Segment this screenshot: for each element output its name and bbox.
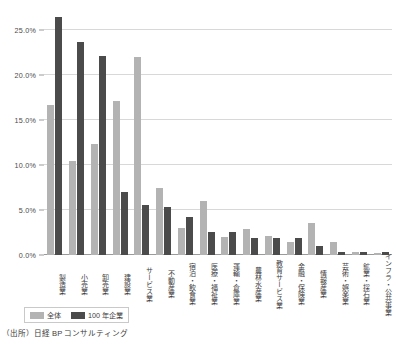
- y-axis-tick-label: 15.0%: [15, 116, 36, 125]
- x-axis-label: 鉱業・採石業: [349, 258, 371, 310]
- bar-group: [44, 8, 66, 255]
- bar: [229, 232, 236, 255]
- x-axis-label: 教育サービス業: [262, 258, 284, 310]
- bar-group: [305, 8, 327, 255]
- bar-groups: [44, 8, 392, 255]
- x-axis-label: 不動産業: [153, 258, 175, 310]
- x-axis-label: 卸売業: [88, 258, 110, 310]
- bar: [308, 223, 315, 255]
- source-note: （出所）日経 BP コンサルティング: [2, 327, 128, 338]
- bar: [316, 246, 323, 255]
- legend-item-century: 100 年企業: [71, 310, 123, 320]
- bar: [121, 192, 128, 255]
- bar-group: [349, 8, 371, 255]
- bar: [164, 207, 171, 255]
- bar: [55, 17, 62, 255]
- bar: [330, 242, 337, 255]
- x-axis-label: インフラ・公共事業: [370, 258, 392, 310]
- bar: [99, 56, 106, 255]
- x-axis-label: 農林水産業: [240, 258, 262, 310]
- x-axis-label: 建設業: [109, 258, 131, 310]
- bar-group: [283, 8, 305, 255]
- bar: [91, 144, 98, 255]
- legend-label-total: 全体: [47, 310, 61, 320]
- bar-group: [175, 8, 197, 255]
- bar: [221, 237, 228, 255]
- bar: [47, 105, 54, 255]
- y-axis-tick-label: 5.0%: [19, 206, 36, 215]
- bar: [69, 161, 76, 255]
- bar: [156, 188, 163, 255]
- bar: [178, 228, 185, 255]
- x-axis-label: 宿泊・飲食業: [175, 258, 197, 310]
- bar-group: [196, 8, 218, 255]
- chart-legend: 全体 100 年企業: [24, 307, 129, 323]
- legend-item-total: 全体: [30, 310, 61, 320]
- plot-area: [44, 8, 392, 255]
- x-axis-label: 芸術・娯楽業: [327, 258, 349, 310]
- bar-group: [131, 8, 153, 255]
- x-axis-label: 情報産業: [305, 258, 327, 310]
- legend-swatch-century: [71, 312, 85, 319]
- x-axis-label: サービス業: [131, 258, 153, 310]
- x-axis-label: 金融・保険業: [283, 258, 305, 310]
- bar-group: [109, 8, 131, 255]
- x-axis-label: 運輸・倉庫業: [218, 258, 240, 310]
- bar: [287, 242, 294, 255]
- x-axis-label: 製造業: [44, 258, 66, 310]
- bar: [77, 42, 84, 255]
- bar: [265, 236, 272, 255]
- bar: [251, 238, 258, 255]
- legend-swatch-total: [30, 312, 44, 319]
- bar: [273, 238, 280, 255]
- bar: [338, 252, 345, 255]
- bar: [142, 205, 149, 255]
- bar: [360, 252, 367, 255]
- bar: [208, 232, 215, 255]
- y-axis-tick-label: 0.0%: [19, 251, 36, 260]
- legend-label-century: 100 年企業: [88, 310, 123, 320]
- bar-group: [153, 8, 175, 255]
- y-axis: 25.0%20.0%15.0%10.0%5.0%0.0%: [0, 8, 44, 255]
- bar: [243, 229, 250, 255]
- y-axis-tick-label: 20.0%: [15, 71, 36, 80]
- bar-group: [327, 8, 349, 255]
- x-axis-label: 医療・福祉業: [196, 258, 218, 310]
- bar-group: [370, 8, 392, 255]
- y-axis-tick-label: 25.0%: [15, 26, 36, 35]
- bar: [134, 57, 141, 255]
- bar: [113, 101, 120, 255]
- bar: [295, 238, 302, 255]
- bar-group: [88, 8, 110, 255]
- bar-group: [66, 8, 88, 255]
- bar-chart: 25.0%20.0%15.0%10.0%5.0%0.0% 製造業小売業卸売業建設…: [0, 0, 396, 344]
- bar: [352, 252, 359, 255]
- bar-group: [262, 8, 284, 255]
- x-axis-label: 小売業: [66, 258, 88, 310]
- y-axis-tick-label: 10.0%: [15, 161, 36, 170]
- bar: [200, 201, 207, 255]
- bar-group: [218, 8, 240, 255]
- bar: [186, 217, 193, 255]
- x-axis-labels: 製造業小売業卸売業建設業サービス業不動産業宿泊・飲食業医療・福祉業運輸・倉庫業農…: [44, 258, 392, 310]
- bar-group: [240, 8, 262, 255]
